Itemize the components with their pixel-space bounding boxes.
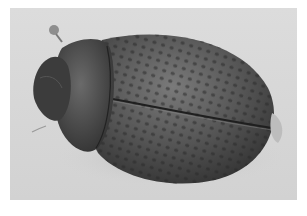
abdomen-tip <box>270 113 282 143</box>
head <box>33 57 71 121</box>
beetle-photo <box>10 8 297 200</box>
beetle-illustration <box>10 8 297 200</box>
antenna <box>32 126 46 132</box>
antenna-stalk <box>56 34 62 42</box>
antenna-club <box>49 25 59 35</box>
